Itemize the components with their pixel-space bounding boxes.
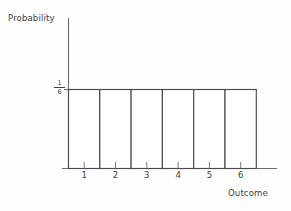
probability-histogram-figure: Probability 1 6 1 2 3 4 5 6 Outcome — [0, 0, 291, 211]
bar-outcome-5 — [194, 90, 225, 169]
x-axis-tick-label-2: 2 — [106, 170, 126, 180]
x-axis-tick-label-6: 6 — [231, 170, 251, 180]
bar-outcome-4 — [162, 90, 193, 169]
y-axis-tick-label-one-sixth: 1 6 — [53, 80, 66, 96]
x-axis-tick-label-3: 3 — [137, 170, 157, 180]
x-axis-tick-label-1: 1 — [74, 170, 94, 180]
fraction-denominator: 6 — [53, 88, 66, 95]
bar-series — [69, 90, 257, 169]
x-axis-title: Outcome — [228, 188, 268, 198]
y-axis-title: Probability — [8, 13, 55, 23]
bar-outcome-3 — [131, 90, 162, 169]
x-axis-tick-label-4: 4 — [168, 170, 188, 180]
bar-outcome-6 — [225, 90, 256, 169]
bar-outcome-2 — [100, 90, 131, 169]
x-axis-tick-label-5: 5 — [199, 170, 219, 180]
fraction-numerator: 1 — [53, 80, 66, 87]
bar-outcome-1 — [69, 90, 100, 169]
